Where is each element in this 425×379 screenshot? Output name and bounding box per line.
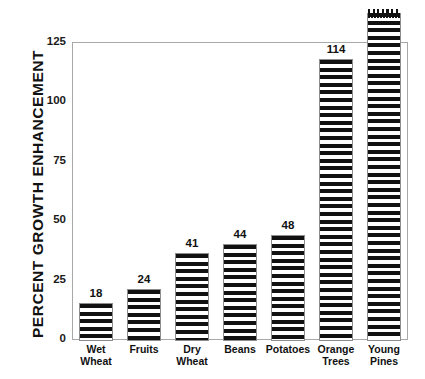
- bar-top-cap: [272, 236, 304, 240]
- bar-slot-wet-wheat: 18: [72, 0, 120, 341]
- bar-wet-wheat: [79, 303, 113, 341]
- bar-value-label: 265: [360, 0, 408, 2]
- x-axis-category-group: Wet Wheat Fruits Dry Wheat Beans Potatoe…: [72, 344, 408, 379]
- bar-potatoes: [271, 235, 305, 341]
- bar-top-cap: [320, 60, 352, 64]
- bar-slot-beans: 44: [216, 0, 264, 341]
- bar-value-label: 114: [312, 43, 360, 55]
- bar-young-pines: [367, 13, 401, 341]
- bar-value-label: 44: [216, 228, 264, 240]
- bar-top-cap: [224, 245, 256, 249]
- y-axis-tick-group: 125 100 75 50 25 0: [30, 0, 66, 379]
- bar-top-cap: [176, 254, 208, 258]
- x-label-line2: Wheat: [68, 356, 124, 368]
- y-axis-tick-100: 100: [32, 95, 66, 106]
- y-axis-tick-75: 75: [32, 155, 66, 166]
- bar-value-label: 41: [168, 237, 216, 249]
- y-axis-tick-0: 0: [32, 333, 66, 344]
- x-label-line1: Young: [356, 344, 412, 356]
- bar-series: 18 24 41 44 48: [72, 0, 408, 341]
- bar-slot-dry-wheat: 41: [168, 0, 216, 341]
- bar-slot-potatoes: 48: [264, 0, 312, 341]
- bar-value-label: 18: [72, 287, 120, 299]
- x-label-line2: Wheat: [164, 356, 220, 368]
- bar-slot-young-pines: 265: [360, 0, 408, 341]
- y-axis-tick-50: 50: [32, 214, 66, 225]
- bar-value-label: 24: [120, 273, 168, 285]
- bar-chart: PERCENT GROWTH ENHANCEMENT 125 100 75 50…: [0, 0, 425, 379]
- bar-orange-trees: [319, 59, 353, 341]
- y-axis-tick-25: 25: [32, 274, 66, 285]
- bar-top-cap: [128, 290, 160, 294]
- bar-fruits: [127, 289, 161, 341]
- x-label-young-pines: Young Pines: [356, 344, 412, 367]
- bar-top-cap: [368, 13, 400, 18]
- bar-beans: [223, 244, 257, 341]
- bar-dry-wheat: [175, 253, 209, 341]
- bar-slot-fruits: 24: [120, 0, 168, 341]
- bar-value-label: 48: [264, 219, 312, 231]
- bar-top-cap: [80, 304, 112, 308]
- x-label-line2: Pines: [356, 356, 412, 368]
- bar-slot-orange-trees: 114: [312, 0, 360, 341]
- y-axis-tick-125: 125: [32, 36, 66, 47]
